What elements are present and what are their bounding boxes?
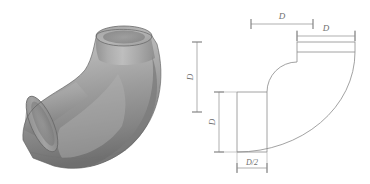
top-inner-dim-label: D	[322, 23, 330, 33]
top-opening-bore	[103, 31, 145, 44]
elbow-dimensioned-drawing: D D D D D/2	[185, 0, 370, 184]
figure-root: D D D D D/2	[0, 0, 370, 184]
photograph-canvas	[0, 0, 185, 184]
drawing-canvas: D D D D D/2	[185, 0, 370, 184]
outer-arc	[237, 52, 355, 152]
inner-arc	[267, 42, 297, 92]
top-outer-dim-label: D	[278, 11, 286, 21]
left-inner-dim-label: D	[207, 118, 217, 126]
left-outer-dim-label: D	[185, 73, 195, 81]
bottom-dim-label: D/2	[245, 158, 258, 167]
elbow-photograph	[0, 0, 185, 184]
